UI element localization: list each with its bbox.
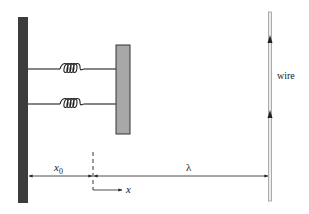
x0-label: x0: [53, 161, 63, 176]
diagram-canvas: x0 λ x wire: [0, 0, 309, 214]
x-label: x: [125, 183, 131, 195]
fixed-wall: [18, 17, 28, 203]
upper-spring: [28, 63, 116, 72]
movable-block: [116, 45, 130, 134]
wire-label: wire: [277, 70, 295, 81]
lambda-label: λ: [186, 161, 192, 173]
lower-spring: [28, 98, 116, 107]
